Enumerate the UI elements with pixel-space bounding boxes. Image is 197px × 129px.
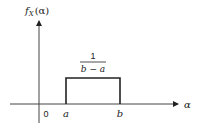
height-numerator: 1 [90, 51, 95, 61]
upper-bound-label: b [117, 108, 123, 119]
uniform-pdf-diagram: fX(α) 1 b − a 0 a b α [0, 0, 197, 129]
pdf-rectangle [66, 78, 120, 104]
origin-label: 0 [43, 109, 48, 119]
x-axis-label: α [184, 99, 191, 110]
height-denominator: b − a [81, 64, 105, 74]
lower-bound-label: a [63, 108, 69, 119]
y-axis-label: fX(α) [24, 5, 49, 18]
